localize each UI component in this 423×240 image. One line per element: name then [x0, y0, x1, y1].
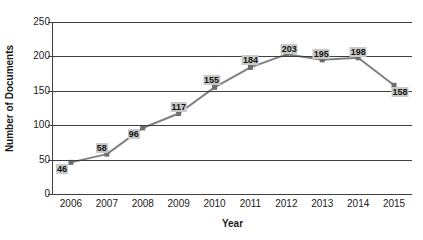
data-point-marker	[212, 85, 217, 90]
data-label: 155	[203, 75, 220, 85]
x-axis-tick-label: 2015	[383, 198, 405, 210]
x-axis-tick-labels: 2006200720082009201020112012201320142015	[53, 198, 412, 214]
y-axis-tick-label: 250	[20, 17, 50, 27]
y-axis-tickmark	[48, 125, 53, 126]
data-point-marker	[68, 160, 73, 165]
x-axis-tick-label: 2013	[311, 198, 333, 210]
y-axis-tick-label: 200	[20, 51, 50, 61]
data-label: 58	[96, 143, 108, 153]
data-label: 195	[313, 49, 330, 59]
data-label: 96	[128, 129, 140, 139]
x-axis-tick-label: 2008	[132, 198, 154, 210]
x-axis-tick-label: 2011	[240, 198, 262, 210]
y-axis-tick-labels: 050100150200250	[18, 0, 50, 196]
data-label: 158	[392, 87, 409, 97]
x-axis-tick-label: 2012	[275, 198, 297, 210]
plot-area: 465896117155184203195198158	[53, 22, 412, 194]
x-axis-tick-label: 2006	[60, 198, 82, 210]
gridline	[53, 91, 412, 92]
data-point-marker	[248, 65, 253, 70]
data-label: 46	[56, 164, 68, 174]
x-axis-tick-label: 2014	[347, 198, 369, 210]
y-axis-tick-label: 100	[20, 120, 50, 130]
x-axis-title: Year	[53, 218, 412, 229]
y-axis-tickmark	[48, 160, 53, 161]
data-label: 198	[350, 47, 367, 57]
y-axis-tickmark	[48, 91, 53, 92]
data-point-marker	[140, 125, 145, 130]
series-polyline	[71, 54, 394, 162]
x-axis-tick-label: 2009	[168, 198, 190, 210]
gridline	[53, 194, 412, 195]
data-label: 117	[170, 102, 187, 112]
y-axis-title: Number of Documents	[0, 0, 20, 196]
y-axis-tick-label: 50	[20, 155, 50, 165]
gridline	[53, 125, 412, 126]
x-axis-tick-label: 2007	[96, 198, 118, 210]
y-axis-title-label: Number of Documents	[5, 44, 16, 151]
x-axis-tick-label: 2010	[203, 198, 225, 210]
y-axis-tickmark	[48, 22, 53, 23]
y-axis-tick-label: 150	[20, 86, 50, 96]
gridline	[53, 22, 412, 23]
gridline	[53, 160, 412, 161]
line-chart: Number of Documents 050100150200250 4658…	[0, 0, 423, 240]
data-point-marker	[176, 111, 181, 116]
y-axis-tickmark	[48, 56, 53, 57]
data-label: 203	[281, 44, 298, 54]
y-axis-tickmark	[48, 194, 53, 195]
data-label: 184	[242, 55, 259, 65]
y-axis-tick-label: 0	[20, 189, 50, 199]
